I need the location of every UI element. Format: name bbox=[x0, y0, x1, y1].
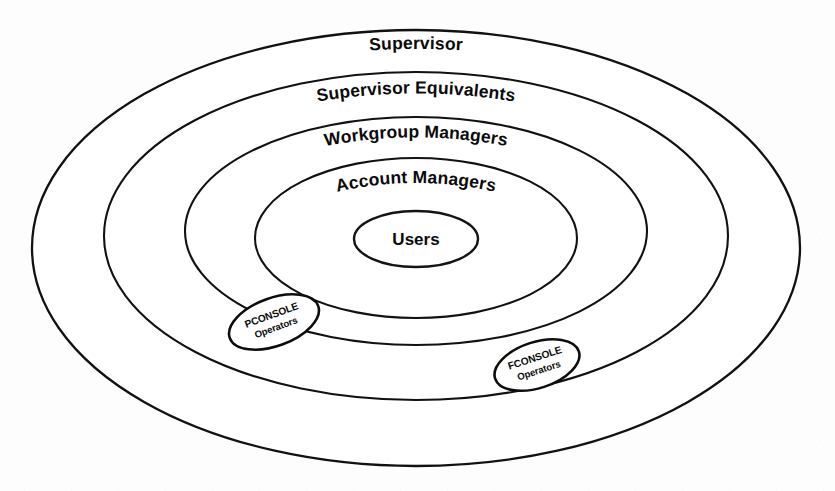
ring-label-supervisor: Supervisor bbox=[369, 33, 464, 54]
security-hierarchy-figure: Supervisor Supervisor Equivalents Workgr… bbox=[0, 0, 835, 491]
concentric-ellipse-diagram: Supervisor Supervisor Equivalents Workgr… bbox=[0, 0, 835, 491]
ring-label-users: Users bbox=[392, 230, 439, 249]
